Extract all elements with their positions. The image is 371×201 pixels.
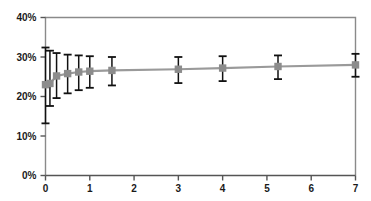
error-bars [42, 48, 360, 124]
data-point-marker [274, 63, 281, 70]
y-tick-label: 0% [22, 170, 37, 181]
y-tick-label: 30% [16, 52, 36, 63]
chart-container: 0%10%20%30%40% 01234567 [0, 0, 371, 201]
x-tick-label: 7 [353, 183, 359, 194]
x-tick-label: 6 [308, 183, 314, 194]
x-axis-ticks: 01234567 [43, 176, 359, 194]
x-tick-label: 1 [87, 183, 93, 194]
data-point-marker [219, 64, 226, 71]
x-tick-label: 5 [264, 183, 270, 194]
data-point-marker [64, 70, 71, 77]
data-point-marker [175, 66, 182, 73]
data-point-marker [86, 68, 93, 75]
data-point-marker [75, 68, 82, 75]
y-tick-label: 40% [16, 12, 36, 23]
data-point-marker [46, 80, 53, 87]
errorbar-line-chart: 0%10%20%30%40% 01234567 [0, 0, 371, 201]
x-tick-label: 4 [220, 183, 226, 194]
data-point-marker [352, 61, 359, 68]
x-tick-label: 0 [43, 183, 49, 194]
x-tick-label: 2 [131, 183, 137, 194]
data-point-marker [53, 72, 60, 79]
x-tick-label: 3 [176, 183, 182, 194]
y-tick-label: 20% [16, 91, 36, 102]
plot-frame [46, 18, 356, 176]
plot-border [46, 18, 356, 176]
data-point-marker [108, 67, 115, 74]
y-axis-ticks: 0%10%20%30%40% [16, 12, 45, 181]
y-tick-label: 10% [16, 131, 36, 142]
